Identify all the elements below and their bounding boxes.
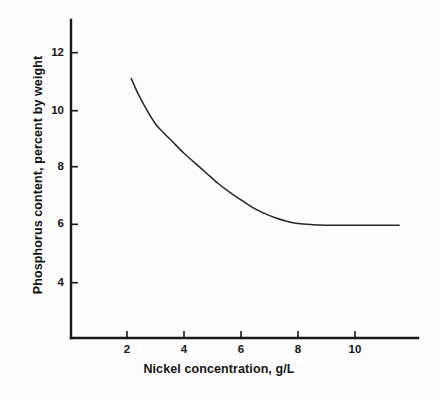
x-tick-label-8: 8: [295, 344, 301, 356]
x-tick-label-10: 10: [349, 344, 362, 356]
phosphorus-decay-curve: [131, 79, 399, 226]
x-tick-label-4: 4: [181, 344, 187, 356]
x-axis-title: Nickel concentration, g/L: [0, 362, 438, 376]
y-axis-title: Phosphorus content, percent by weight: [31, 15, 45, 335]
x-tick-label-6: 6: [238, 344, 244, 356]
x-tick-label-2: 2: [124, 344, 130, 356]
plot-area: [0, 0, 438, 401]
chart-figure: 12 10 8 6 4 2 4 6 8 10 Nickel concentrat…: [0, 0, 438, 401]
